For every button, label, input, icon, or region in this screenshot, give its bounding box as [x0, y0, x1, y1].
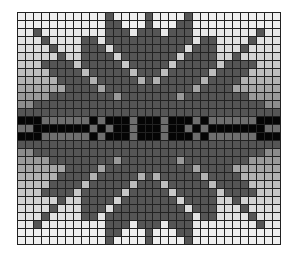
- chart-cell: [106, 53, 114, 61]
- chart-cell: [26, 61, 34, 69]
- chart-cell: [58, 45, 66, 53]
- chart-cell: [26, 21, 34, 29]
- chart-cell: [241, 37, 249, 45]
- chart-cell: [161, 45, 169, 53]
- chart-cell: [201, 197, 209, 205]
- chart-cell: [106, 221, 114, 229]
- chart-cell: [209, 93, 217, 101]
- chart-cell: [82, 21, 90, 29]
- chart-cell: [90, 173, 98, 181]
- chart-cell: [241, 61, 249, 69]
- chart-cell: [161, 101, 169, 109]
- chart-cell: [249, 237, 257, 245]
- chart-cell: [114, 37, 122, 45]
- chart-cell: [26, 37, 34, 45]
- chart-cell: [185, 29, 193, 37]
- chart-cell: [50, 213, 58, 221]
- chart-cell: [201, 85, 209, 93]
- chart-cell: [114, 125, 122, 133]
- chart-cell: [66, 157, 74, 165]
- chart-cell: [138, 149, 146, 157]
- chart-cell: [82, 29, 90, 37]
- chart-cell: [130, 181, 138, 189]
- chart-cell: [34, 213, 42, 221]
- chart-cell: [193, 93, 201, 101]
- chart-cell: [50, 69, 58, 77]
- chart-cell: [193, 173, 201, 181]
- chart-cell: [177, 149, 185, 157]
- chart-cell: [177, 61, 185, 69]
- chart-cell: [161, 37, 169, 45]
- chart-cell: [177, 37, 185, 45]
- chart-cell: [153, 37, 161, 45]
- chart-cell: [42, 29, 50, 37]
- chart-cell: [34, 165, 42, 173]
- chart-cell: [177, 13, 185, 21]
- chart-cell: [34, 69, 42, 77]
- chart-cell: [114, 221, 122, 229]
- chart-cell: [161, 53, 169, 61]
- chart-cell: [225, 181, 233, 189]
- chart-cell: [74, 165, 82, 173]
- chart-cell: [34, 133, 42, 141]
- chart-cell: [18, 117, 26, 125]
- chart-cell: [122, 133, 130, 141]
- chart-cell: [265, 125, 273, 133]
- chart-cell: [18, 13, 26, 21]
- chart-cell: [169, 109, 177, 117]
- knitting-chart-grid: [17, 12, 281, 245]
- chart-cell: [249, 221, 257, 229]
- chart-cell: [169, 117, 177, 125]
- chart-cell: [146, 29, 154, 37]
- chart-cell: [217, 101, 225, 109]
- chart-cell: [26, 77, 34, 85]
- chart-cell: [185, 197, 193, 205]
- chart-cell: [153, 141, 161, 149]
- chart-cell: [82, 101, 90, 109]
- chart-cell: [273, 13, 281, 21]
- chart-cell: [138, 77, 146, 85]
- chart-cell: [217, 221, 225, 229]
- chart-cell: [138, 21, 146, 29]
- chart-cell: [233, 157, 241, 165]
- chart-cell: [66, 221, 74, 229]
- chart-cell: [209, 61, 217, 69]
- chart-cell: [273, 69, 281, 77]
- chart-cell: [90, 149, 98, 157]
- chart-cell: [122, 13, 130, 21]
- chart-cell: [138, 165, 146, 173]
- chart-cell: [273, 133, 281, 141]
- chart-cell: [138, 213, 146, 221]
- chart-cell: [193, 77, 201, 85]
- chart-cell: [153, 125, 161, 133]
- chart-cell: [74, 205, 82, 213]
- chart-cell: [42, 181, 50, 189]
- chart-cell: [138, 125, 146, 133]
- chart-cell: [225, 93, 233, 101]
- chart-cell: [58, 85, 66, 93]
- chart-cell: [26, 53, 34, 61]
- chart-cell: [98, 29, 106, 37]
- chart-cell: [138, 45, 146, 53]
- chart-cell: [42, 21, 50, 29]
- chart-cell: [265, 109, 273, 117]
- chart-cell: [217, 149, 225, 157]
- chart-cell: [233, 197, 241, 205]
- chart-cell: [58, 29, 66, 37]
- chart-cell: [177, 77, 185, 85]
- chart-cell: [58, 93, 66, 101]
- chart-cell: [122, 21, 130, 29]
- chart-cell: [249, 157, 257, 165]
- chart-cell: [265, 173, 273, 181]
- chart-cell: [161, 61, 169, 69]
- chart-cell: [209, 69, 217, 77]
- chart-cell: [265, 93, 273, 101]
- chart-cell: [42, 157, 50, 165]
- chart-cell: [58, 141, 66, 149]
- chart-cell: [82, 85, 90, 93]
- chart-cell: [153, 157, 161, 165]
- chart-cell: [82, 205, 90, 213]
- chart-cell: [225, 229, 233, 237]
- chart-cell: [122, 109, 130, 117]
- chart-cell: [90, 237, 98, 245]
